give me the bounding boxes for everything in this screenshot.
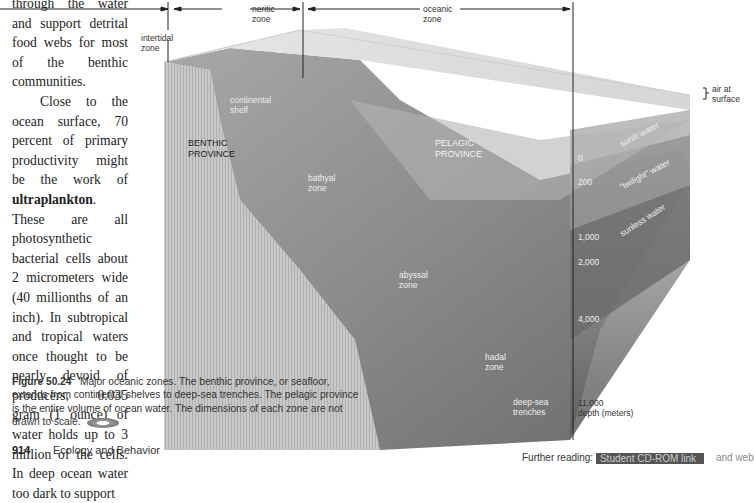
further-reading-label: Further reading:	[522, 452, 593, 463]
depth-0: 0	[578, 153, 583, 163]
label-pelagic-province: PELAGICPROVINCE	[435, 138, 482, 160]
further-reading-tail: and web	[716, 452, 754, 463]
label-benthic-province: BENTHICPROVINCE	[188, 138, 235, 160]
label-oceanic-zone: oceaniczone	[423, 4, 452, 24]
further-reading: Further reading: Student CD-ROM linkand …	[522, 452, 754, 464]
figure-caption: Figure 50.24 Major oceanic zones. The be…	[12, 375, 367, 429]
label-deep-sea-trenches: deep-seatrenches	[513, 397, 548, 417]
label-air-at-surface: air atsurface	[712, 84, 740, 104]
label-bathyal-zone: bathyalzone	[308, 173, 335, 193]
page-number: 914	[12, 444, 30, 456]
cd-rom-icon[interactable]	[87, 418, 119, 428]
depth-2000: 2,000	[578, 257, 599, 267]
label-abyssal-zone: abyssalzone	[399, 270, 428, 290]
label-neritic-zone: neriticzone	[252, 4, 275, 24]
depth-200: 200	[578, 177, 592, 187]
label-continental-shelf: continentalshelf	[230, 95, 271, 115]
depth-4000: 4,000	[578, 314, 599, 324]
label-hadal-zone: hadalzone	[485, 352, 506, 372]
section-title: Ecology and Behavior	[53, 444, 160, 456]
air-surface-bracket	[703, 88, 709, 99]
figure-label: Figure 50.24	[12, 376, 71, 387]
further-reading-link[interactable]: Student CD-ROM link	[596, 453, 704, 464]
depth-1000: 1,000	[578, 232, 599, 242]
depth-11000: 11,000depth (meters)	[578, 398, 633, 418]
label-intertidal-zone: intertidalzone	[141, 33, 173, 53]
